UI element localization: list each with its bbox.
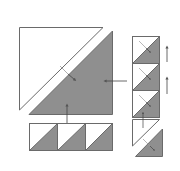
bottom-row [30, 124, 113, 151]
right-column [133, 37, 163, 157]
quilt-assembly-diagram [0, 0, 180, 171]
